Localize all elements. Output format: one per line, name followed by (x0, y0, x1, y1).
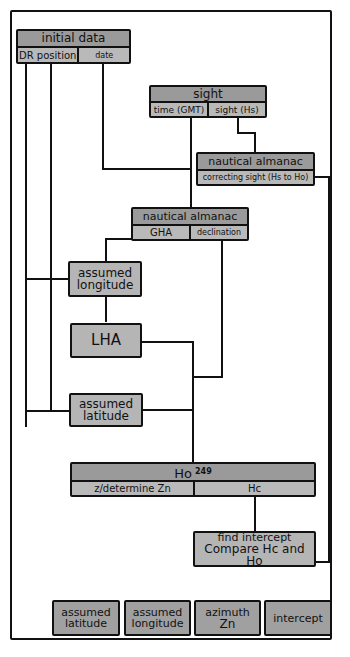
result-line2: Zn (220, 618, 236, 630)
node-title: sight (151, 87, 265, 103)
connector-hc-down (254, 496, 256, 532)
connector-lon-lha (105, 296, 107, 322)
node-label: LHA (91, 333, 121, 348)
cell-determine-zn: z/determine Zn (72, 482, 193, 497)
node-sight: sight time (GMT) sight (Hs) (149, 85, 267, 118)
node-ho-table: Ho249 z/determine Zn Hc (70, 462, 316, 497)
result-line2: latitude (65, 618, 107, 629)
cell-gha: GHA (133, 226, 189, 241)
connector-date-right (102, 168, 192, 170)
connector-gha-down (105, 240, 107, 262)
node-initial-data: initial data DR position date (16, 29, 131, 64)
cell-date: date (77, 48, 129, 64)
result-line2: longitude (132, 618, 184, 629)
connector-dec-down (221, 240, 223, 378)
connector-dr-inner-lat (50, 279, 52, 411)
connector-corr-to-intercept (316, 561, 330, 563)
connector-dr-to-longitude (25, 278, 69, 280)
result-intercept: intercept (264, 600, 332, 636)
result-line1: azimuth (205, 607, 250, 618)
node-almanac-gha: nautical almanac GHA declination (131, 207, 249, 241)
connector-date-down (102, 62, 104, 170)
connector-gmt-down (190, 116, 192, 208)
result-line1: intercept (273, 613, 323, 624)
ho-title-sup: 249 (195, 467, 212, 476)
result-assumed-latitude: assumed latitude (52, 600, 120, 636)
cell-declination: declination (189, 226, 247, 241)
connector-lat-right (142, 409, 194, 411)
node-title: Ho249 (72, 464, 314, 482)
connector-main-trunk (192, 341, 194, 463)
connector-corr-down (328, 176, 330, 562)
node-title: nautical almanac (198, 154, 313, 171)
cell-sight-hs: sight (Hs) (207, 103, 265, 118)
cell-time-gmt: time (GMT) (151, 103, 207, 118)
node-title: initial data (18, 31, 129, 48)
connector-dr-trunk (25, 62, 27, 427)
node-label: assumed longitude (70, 267, 140, 291)
result-azimuth-zn: azimuth Zn (194, 600, 261, 636)
node-assumed-latitude: assumed latitude (69, 393, 143, 427)
connector-gha-left (105, 238, 133, 240)
connector-hs-down2 (254, 132, 256, 152)
node-find-intercept: find intercept Compare Hc and Ho (193, 531, 316, 567)
cell-dr-position: DR position (18, 48, 77, 64)
cell-correcting-sight: correcting sight (Hs to Ho) (198, 171, 313, 186)
node-lha: LHA (70, 323, 142, 358)
node-title: nautical almanac (133, 209, 247, 226)
connector-dec-left (192, 376, 223, 378)
result-assumed-longitude: assumed longitude (124, 600, 191, 636)
connector-dr-to-latitude (25, 410, 69, 412)
connector-lha-right (142, 341, 194, 343)
node-label-line2: Compare Hc and Ho (195, 543, 314, 567)
ho-title: Ho (174, 466, 192, 481)
node-almanac-correction: nautical almanac correcting sight (Hs to… (196, 152, 315, 186)
node-assumed-longitude: assumed longitude (68, 261, 142, 297)
connector-hs-right (237, 132, 255, 134)
node-label: assumed latitude (71, 398, 141, 422)
node-label-line1: find intercept (218, 532, 292, 543)
connector-dr-inner (50, 62, 52, 279)
cell-hc: Hc (193, 482, 314, 497)
